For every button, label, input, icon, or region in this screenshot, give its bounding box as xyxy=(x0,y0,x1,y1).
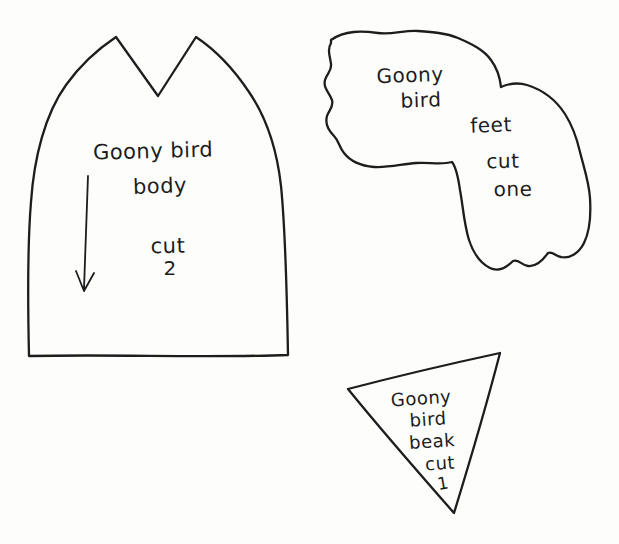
body-name-line2: body xyxy=(133,173,188,199)
feet-name-line1: Goony xyxy=(376,62,444,88)
body-cut-label: cut xyxy=(150,234,185,259)
feet-pattern-shape xyxy=(325,31,591,270)
down-arrow-icon xyxy=(76,176,94,291)
feet-part-label: feet xyxy=(470,112,512,137)
beak-part-label: beak xyxy=(408,429,455,453)
feet-name-line2: bird xyxy=(400,87,442,112)
pattern-sheet: Goony bird body cut 2 Goony bird feet cu… xyxy=(0,0,619,544)
beak-cut-label: cut xyxy=(424,451,455,474)
feet-cut-count: one xyxy=(493,177,532,202)
body-cut-count: 2 xyxy=(163,256,176,280)
body-name-line1: Goony bird xyxy=(93,137,214,164)
beak-name-line2: bird xyxy=(409,407,447,431)
pattern-drawing xyxy=(0,0,619,544)
feet-cut-label: cut xyxy=(486,149,519,174)
